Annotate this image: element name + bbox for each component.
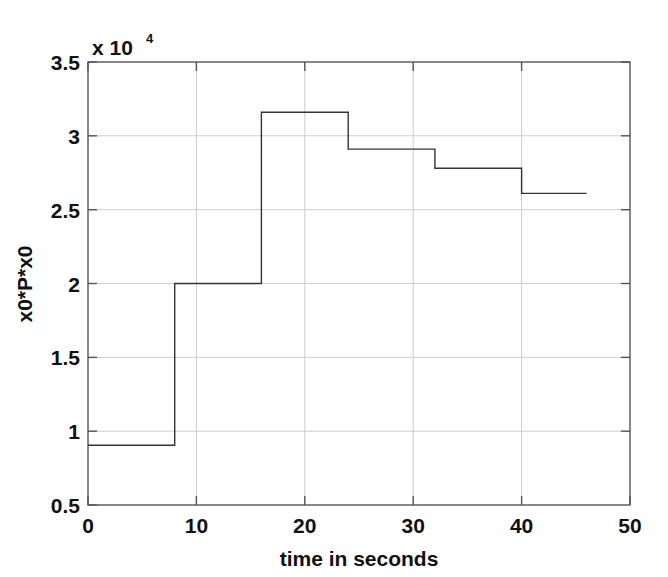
figure-background bbox=[0, 0, 668, 577]
x-tick-label: 10 bbox=[185, 514, 208, 537]
chart-plot-svg: 3.5 3 2.5 2 1.5 1 0.5 0 10 20 30 40 50 x… bbox=[0, 0, 668, 577]
y-tick-label: 2 bbox=[68, 273, 80, 296]
y-tick-label: 3 bbox=[68, 125, 80, 148]
y-tick-label: 2.5 bbox=[51, 199, 81, 222]
y-tick-label: 3.5 bbox=[51, 51, 81, 74]
x-tick-label: 30 bbox=[402, 514, 425, 537]
exponent-power: 4 bbox=[146, 31, 154, 46]
y-tick-label: 1.5 bbox=[51, 346, 81, 369]
chart-figure: 3.5 3 2.5 2 1.5 1 0.5 0 10 20 30 40 50 x… bbox=[0, 0, 668, 577]
x-tick-label: 50 bbox=[618, 514, 641, 537]
y-tick-label: 0.5 bbox=[51, 494, 81, 517]
x-tick-label: 40 bbox=[510, 514, 533, 537]
y-tick-label: 1 bbox=[68, 420, 80, 443]
y-axis-title: x0*P*x0 bbox=[13, 245, 36, 322]
x-axis-title: time in seconds bbox=[280, 547, 439, 570]
exponent-base: x 10 bbox=[92, 36, 133, 59]
x-tick-label: 0 bbox=[82, 514, 94, 537]
x-tick-label: 20 bbox=[293, 514, 316, 537]
